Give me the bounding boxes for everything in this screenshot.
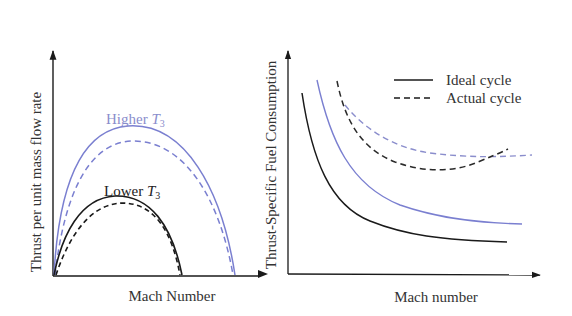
tsfc-actual-blue-curve [345,105,532,157]
higher-t3-ideal-curve [54,126,235,275]
higher-t3-label: Higher T3 [106,111,165,129]
left-chart: Higher T3 Lower T3 Mach Number Thrust pe… [28,51,258,304]
left-x-axis-label: Mach Number [128,288,215,304]
right-y-axis-label: Thrust-Specific Fuel Consumption [263,60,279,269]
figure: Higher T3 Lower T3 Mach Number Thrust pe… [0,0,572,316]
right-chart: Ideal cycle Actual cycle Mach number Thr… [258,51,540,305]
left-y-axis-label: Thrust per unit mass flow rate [28,91,44,272]
right-x-axis-left-arrow [258,270,268,278]
legend-actual-label: Actual cycle [446,90,522,106]
right-x-axis-label: Mach number [394,289,478,305]
lower-t3-actual-curve [56,203,180,275]
right-x-axis [288,274,540,275]
higher-t3-actual-curve [55,141,233,275]
tsfc-ideal-black-curve [302,93,507,242]
lower-t3-label: Lower T3 [104,183,160,201]
legend: Ideal cycle Actual cycle [394,72,522,106]
legend-ideal-label: Ideal cycle [446,72,512,88]
